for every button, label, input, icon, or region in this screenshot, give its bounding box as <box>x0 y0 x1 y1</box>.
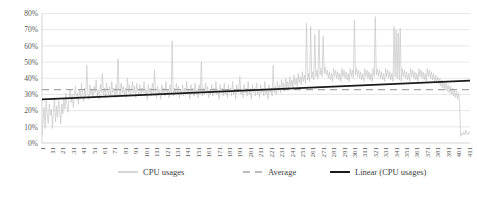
x-axis-tick-label: 331 <box>382 147 390 158</box>
x-axis-tick-label: 31 <box>70 147 78 155</box>
x-axis-tick-label: 61 <box>101 147 109 155</box>
cpu-usage-chart: 0%10%20%30%40%50%60%70%80% 1112131415161… <box>0 0 477 198</box>
x-axis-tick-label: 71 <box>111 147 119 155</box>
y-axis-tick-label: 20% <box>24 106 38 115</box>
y-axis-ticks: 0%10%20%30%40%50%60%70%80% <box>24 9 38 148</box>
x-axis-tick-label: 21 <box>59 147 67 155</box>
x-axis-tick-label: 11 <box>49 147 57 154</box>
x-axis-tick-label: 351 <box>403 147 411 158</box>
legend-label-1: CPU usages <box>143 167 184 177</box>
x-axis-tick-label: 381 <box>434 147 442 158</box>
x-axis-tick-label: 211 <box>257 147 265 158</box>
x-axis-tick-label: 291 <box>341 147 349 158</box>
y-axis-tick-label: 10% <box>24 123 38 132</box>
x-axis-tick-label: 261 <box>309 147 317 158</box>
x-axis-tick-label: 301 <box>351 147 359 158</box>
y-axis-tick-label: 70% <box>24 25 38 34</box>
x-axis-tick-label: 391 <box>445 147 453 158</box>
legend-label-3: Linear (CPU usages) <box>355 167 426 177</box>
x-axis-tick-label: 341 <box>393 147 401 158</box>
x-axis-tick-label: 411 <box>466 147 474 158</box>
x-axis-tick-label: 151 <box>195 147 203 158</box>
y-axis-tick-label: 0% <box>28 139 38 148</box>
x-axis-tick-label: 371 <box>424 147 432 158</box>
x-axis-tick-label: 141 <box>184 147 192 158</box>
x-axis-tick-label: 241 <box>289 147 297 158</box>
x-axis-tick-label: 311 <box>361 147 369 158</box>
x-axis-tick-label: 361 <box>413 147 421 158</box>
legend-label-2: Average <box>268 167 296 177</box>
x-axis-tick-label: 41 <box>80 147 88 155</box>
series-layer <box>42 17 470 137</box>
x-axis-tick-label: 271 <box>320 147 328 158</box>
chart-canvas: 0%10%20%30%40%50%60%70%80% 1112131415161… <box>0 0 477 198</box>
x-axis-tick-label: 201 <box>247 147 255 158</box>
series-cpu-usages <box>42 17 470 137</box>
x-axis-tick-label: 191 <box>236 147 244 158</box>
y-axis-tick-label: 80% <box>24 9 38 18</box>
x-axis-tick-label: 161 <box>205 147 213 158</box>
x-axis-ticks: 1112131415161718191101111121131141151161… <box>39 147 474 158</box>
x-axis-tick-label: 81 <box>122 147 130 155</box>
y-axis-tick-label: 60% <box>24 42 38 51</box>
x-axis-tick-label: 221 <box>268 147 276 158</box>
y-axis-tick-label: 30% <box>24 90 38 99</box>
x-axis-tick-label: 181 <box>226 147 234 158</box>
x-axis-tick-label: 111 <box>153 147 161 157</box>
legend: CPU usagesAverageLinear (CPU usages) <box>118 167 426 177</box>
x-axis-tick-label: 121 <box>164 147 172 158</box>
y-axis-tick-label: 50% <box>24 58 38 67</box>
y-axis-tick-label: 40% <box>24 74 38 83</box>
x-axis-tick-label: 51 <box>91 147 99 155</box>
x-axis-tick-label: 131 <box>174 147 182 158</box>
x-axis-tick-label: 251 <box>299 147 307 158</box>
x-axis-tick-label: 1 <box>39 147 47 151</box>
x-axis-tick-label: 101 <box>143 147 151 158</box>
x-axis-tick-label: 91 <box>132 147 140 155</box>
x-axis-tick-label: 281 <box>330 147 338 158</box>
x-axis-tick-label: 401 <box>455 147 463 158</box>
x-axis-tick-label: 171 <box>216 147 224 158</box>
x-axis-tick-label: 321 <box>372 147 380 158</box>
x-axis-tick-label: 231 <box>278 147 286 158</box>
